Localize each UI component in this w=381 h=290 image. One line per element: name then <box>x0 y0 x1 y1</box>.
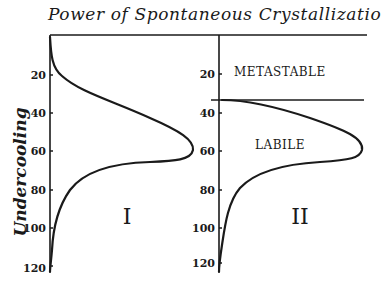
right-tick-40: 40 <box>200 107 216 120</box>
left-tick-80: 80 <box>31 184 47 197</box>
curve-I <box>50 37 193 272</box>
curve-II <box>219 100 362 272</box>
right-tick-100: 100 <box>192 222 215 235</box>
panel-label-II: II <box>291 204 308 229</box>
right-tick-120: 120 <box>192 257 215 270</box>
right-tick-80: 80 <box>200 184 216 197</box>
labile-label: LABILE <box>255 138 305 152</box>
right-tick-60: 60 <box>200 145 216 158</box>
panel-label-I: I <box>123 204 132 229</box>
diagram-canvas: 20 40 60 80 100 120 20 40 60 80 100 120 … <box>0 0 381 290</box>
y-axis-label: Undercooling <box>10 107 30 236</box>
right-tick-20: 20 <box>200 68 216 81</box>
metastable-label: METASTABLE <box>234 65 326 79</box>
left-tick-20: 20 <box>31 69 47 82</box>
left-tick-60: 60 <box>31 145 47 158</box>
left-tick-120: 120 <box>23 262 46 275</box>
left-tick-40: 40 <box>31 107 47 120</box>
